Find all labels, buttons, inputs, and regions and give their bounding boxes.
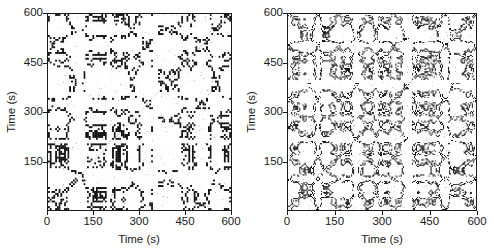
x-axis-title: Time (s)	[118, 233, 160, 245]
ytick-label-150: 150	[254, 156, 283, 168]
recurrence-plot-canvas-right	[288, 14, 476, 210]
x-axis-title: Time (s)	[361, 233, 403, 245]
ytick-label-450: 450	[254, 57, 283, 69]
recurrence-plot-canvas-left	[48, 14, 231, 210]
ytick-mark	[283, 13, 287, 14]
panel-left: 600 450 300 150 0 150 300 450 600 Time (…	[0, 0, 247, 252]
xtick-label-300: 300	[372, 216, 391, 228]
xtick-label-450: 450	[175, 216, 194, 228]
ytick-label-450: 450	[14, 57, 43, 69]
xtick-label-600: 600	[467, 216, 486, 228]
ytick-mark	[43, 162, 47, 163]
ytick-mark	[43, 63, 47, 64]
plot-area-right	[287, 13, 477, 211]
ytick-label-600: 600	[14, 7, 43, 19]
plot-area-left	[47, 13, 232, 211]
recurrence-plot-figure: 600 450 300 150 0 150 300 450 600 Time (…	[0, 0, 494, 252]
ytick-mark	[43, 13, 47, 14]
y-axis-title: Time (s)	[5, 91, 17, 133]
ytick-label-300: 300	[14, 106, 43, 118]
xtick-label-150: 150	[83, 216, 102, 228]
ytick-label-600: 600	[254, 7, 283, 19]
xtick-label-150: 150	[325, 216, 344, 228]
ytick-mark	[283, 63, 287, 64]
panel-right: 600 450 300 150 0 150 300 450 600 Time (…	[247, 0, 494, 252]
ytick-mark	[283, 112, 287, 113]
xtick-label-0: 0	[284, 216, 290, 228]
ytick-label-150: 150	[14, 156, 43, 168]
xtick-label-450: 450	[420, 216, 439, 228]
xtick-label-0: 0	[44, 216, 50, 228]
xtick-label-600: 600	[221, 216, 240, 228]
ytick-label-300: 300	[254, 106, 283, 118]
ytick-mark	[283, 162, 287, 163]
xtick-label-300: 300	[129, 216, 148, 228]
y-axis-title: Time (s)	[245, 91, 257, 133]
ytick-mark	[43, 112, 47, 113]
